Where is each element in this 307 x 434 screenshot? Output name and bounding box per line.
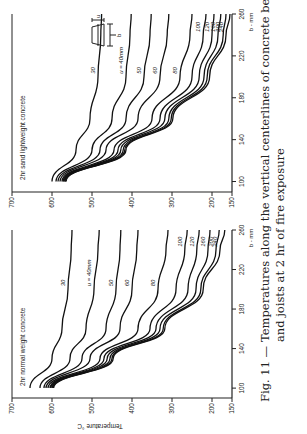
chart-0-y-tick-label: 600	[48, 403, 55, 414]
chart-1-y-tick-label: 700	[8, 197, 15, 208]
chart-0-y-tick-label: 200	[208, 403, 215, 414]
chart-0-curve-label-80: 80	[150, 279, 156, 286]
chart-0-x-tick-label: 220	[238, 264, 245, 275]
chart-1-y-tick-label: 300	[168, 197, 175, 208]
chart-0-curve-label-120: 120	[189, 236, 195, 247]
chart-0-curve-label-30: 30	[60, 279, 66, 286]
chart-0-x-axis-label: b - mm	[248, 229, 254, 248]
chart-0-curve-label-240: 240	[212, 236, 218, 248]
caption-line-1: Temperatures along the vertical centerli…	[258, 0, 273, 342]
chart-0-curve-label-60: 60	[124, 279, 130, 286]
chart-1-curve-label-40: u = 40mm	[118, 47, 124, 74]
chart-1-curve-label-50: 50	[136, 66, 142, 73]
chart-1-y-tick-label: 600	[48, 197, 55, 208]
chart-1-curve-u-160	[65, 14, 221, 182]
chart-0-x-tick-label: 260	[238, 224, 245, 235]
chart-1-title: 2hr sand lightweight concrete	[19, 95, 27, 180]
chart-1-x-tick-label: 140	[238, 134, 245, 145]
chart-1-curve-label-60: 60	[152, 66, 158, 73]
chart-0-y-axis-label: Temperature °C	[77, 422, 123, 430]
chart-0-title: 2hr normal weight concrete	[19, 307, 27, 386]
chart-0-curve-label-160: 160	[200, 236, 206, 247]
chart-0-y-tick-label: 300	[168, 403, 175, 414]
chart-1-curve-u-50	[58, 14, 151, 182]
chart-0-x-tick-label: 180	[238, 303, 245, 314]
chart-1-y-tick-label: 200	[208, 197, 215, 208]
chart-1-curve-label-240: 240	[218, 21, 224, 33]
chart-0-y-tick-label: 500	[88, 403, 95, 414]
chart-1-x-tick-label: 100	[238, 176, 245, 187]
chart-0-curve-u-40	[40, 230, 99, 388]
chart-1-x-tick-label: 260	[238, 8, 245, 19]
chart-1-y-tick-label: 500	[88, 197, 95, 208]
chart-0-curve-label-50: 50	[108, 279, 114, 286]
rotated-page: 100140180220260b - mm7006005004003002001…	[0, 0, 307, 434]
chart-0-x-tick-label: 100	[238, 382, 245, 393]
figure-label: Fig. 11 —	[258, 346, 273, 402]
chart-0-y-tick-label: 400	[128, 403, 135, 414]
chart-0-curve-label-100: 100	[177, 236, 183, 247]
chart-1-y-tick-label: 150	[228, 197, 235, 208]
chart-0-curve-u-160	[52, 230, 210, 388]
chart-1-x-axis-label: b - mm	[248, 13, 254, 32]
chart-0-y-tick-label: 150	[228, 403, 235, 414]
chart-1-curve-u-240	[66, 14, 230, 182]
chart-1-curve-u-80	[62, 14, 192, 182]
caption-line-2: and joists at 2 hr of fire exposure	[273, 148, 288, 342]
chart-1-x-tick-label: 220	[238, 50, 245, 61]
chart-0-curve-u-200	[53, 230, 219, 388]
chart-0-curve-u-30	[30, 230, 72, 388]
chart-0-y-tick-label: 700	[8, 403, 15, 414]
chart-1-curve-u-30	[52, 14, 102, 182]
chart-0-curve-label-40: u = 40mm	[86, 259, 92, 286]
chart-1-curve-label-80: 80	[172, 66, 178, 73]
chart-1-curve-label-100: 100	[195, 21, 201, 32]
chart-0-curve-u-60	[46, 230, 138, 388]
chart-0-x-tick-label: 140	[238, 343, 245, 354]
chart-1-x-tick-label: 180	[238, 92, 245, 103]
chart-1-y-tick-label: 400	[128, 197, 135, 208]
chart-1-curve-label-30: 30	[90, 66, 96, 73]
